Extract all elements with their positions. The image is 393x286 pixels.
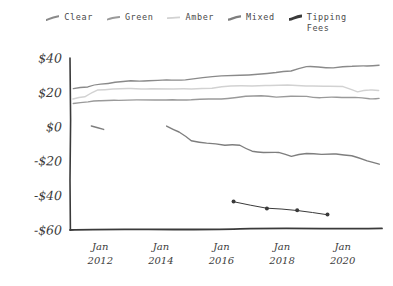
svg-text:2014: 2014 <box>147 255 173 266</box>
svg-text:2012: 2012 <box>87 255 113 266</box>
y-tick-label: -$40 <box>34 188 62 203</box>
series-line <box>73 96 379 104</box>
svg-text:Jan: Jan <box>151 241 169 252</box>
data-point-marker <box>325 213 329 217</box>
chart-series-layer <box>73 65 379 216</box>
x-tick-label: Jan2016 <box>208 241 235 266</box>
series-mixed <box>91 126 379 164</box>
x-tick-label: Jan2020 <box>329 241 356 266</box>
y-tick-label: $20 <box>38 85 62 100</box>
chart-plot-area: $40$20$0-$20-$40-$60 Jan2012Jan2014Jan20… <box>0 0 393 286</box>
x-tick-label: Jan2014 <box>147 241 173 266</box>
series-line <box>234 202 327 215</box>
y-tick-label: $0 <box>46 119 62 134</box>
y-tick-label: -$20 <box>34 153 63 169</box>
x-tick-label: Jan2012 <box>87 241 113 266</box>
svg-text:Jan: Jan <box>211 241 229 252</box>
y-tick-labels: $40$20$0-$20-$40-$60 <box>34 50 63 237</box>
chart-container: Clear Green Amber Mixed Tipping Fees <box>0 0 393 286</box>
svg-text:Jan: Jan <box>90 241 108 252</box>
x-axis <box>70 228 382 230</box>
svg-text:Jan: Jan <box>272 241 290 252</box>
svg-text:2016: 2016 <box>208 255 235 266</box>
svg-text:2018: 2018 <box>268 255 294 266</box>
svg-text:Jan: Jan <box>332 241 350 252</box>
svg-text:2020: 2020 <box>329 255 356 266</box>
data-point-marker <box>232 200 236 204</box>
data-point-marker <box>265 207 269 211</box>
series-tipping-fees <box>232 200 330 217</box>
series-line <box>73 65 379 88</box>
series-line <box>167 126 380 164</box>
data-point-marker <box>295 208 299 212</box>
series-green <box>73 96 379 104</box>
x-tick-labels: Jan2012Jan2014Jan2016Jan2018Jan2020 <box>87 241 356 266</box>
series-clear <box>73 65 379 88</box>
series-line <box>91 126 103 129</box>
y-tick-label: -$60 <box>34 222 62 237</box>
y-tick-label: $40 <box>38 50 62 65</box>
x-tick-label: Jan2018 <box>268 241 294 266</box>
y-axis <box>70 58 71 230</box>
